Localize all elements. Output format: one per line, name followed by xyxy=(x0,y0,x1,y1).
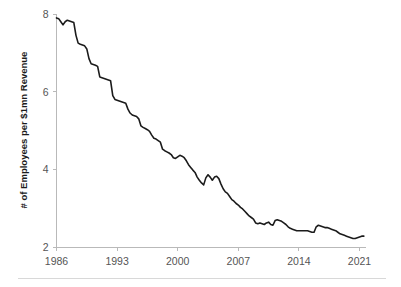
x-tick-label: 1986 xyxy=(45,255,69,267)
y-tick-label: 6 xyxy=(43,86,49,98)
y-axis-group: 2468 xyxy=(43,8,57,253)
x-tick-label: 2000 xyxy=(166,255,190,267)
x-tick-label: 2021 xyxy=(348,255,372,267)
chart-figure: 2468 198619932000200720142021 # of Emplo… xyxy=(0,0,401,287)
x-axis-group: 198619932000200720142021 xyxy=(45,247,372,267)
x-tick-label: 2014 xyxy=(287,255,311,267)
line-chart-plot: 2468 198619932000200720142021 # of Emplo… xyxy=(0,0,401,287)
x-tick-label: 1993 xyxy=(105,255,129,267)
y-tick-label: 2 xyxy=(43,241,49,253)
y-tick-label: 8 xyxy=(43,8,49,20)
y-tick-label: 4 xyxy=(43,163,49,175)
y-axis-title: # of Employees per $1mn Revenue xyxy=(18,52,29,209)
data-series-line xyxy=(57,18,364,239)
y-tick-group: 2468 xyxy=(43,8,57,253)
footer-divider xyxy=(18,278,386,279)
x-tick-group: 198619932000200720142021 xyxy=(45,247,372,267)
x-tick-label: 2007 xyxy=(227,255,251,267)
